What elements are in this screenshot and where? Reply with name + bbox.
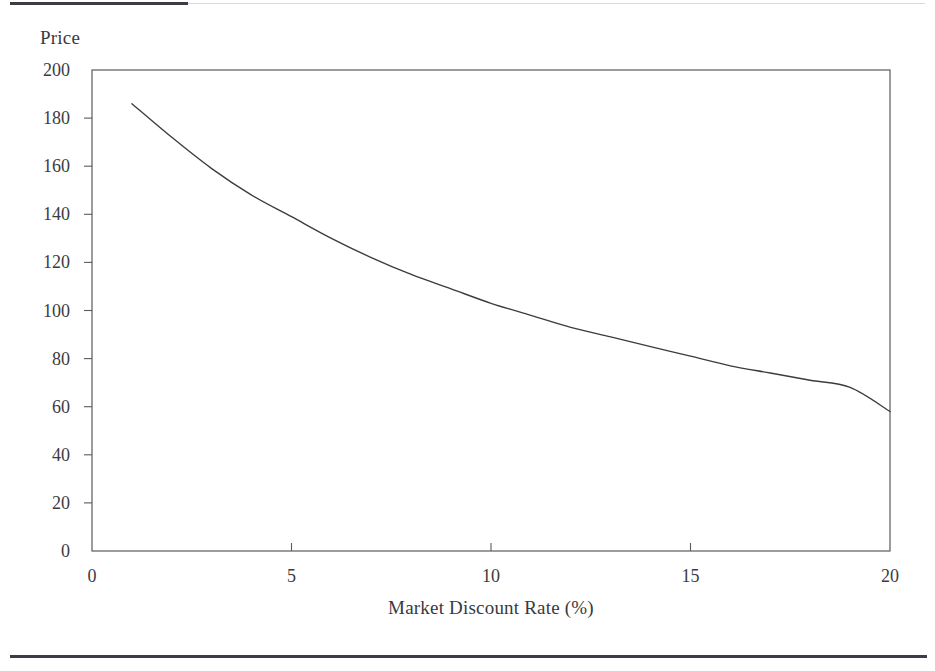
y-tick-label: 0 (8, 542, 70, 560)
y-tick-label: 180 (8, 109, 70, 127)
x-tick-label: 20 (860, 567, 920, 585)
price-curve (132, 104, 890, 412)
y-axis-ticks (84, 118, 92, 503)
plot-area-border (92, 70, 890, 551)
x-tick-label: 5 (262, 567, 322, 585)
plot-frame (92, 70, 890, 551)
x-axis-ticks (292, 543, 691, 551)
x-tick-label: 10 (461, 567, 521, 585)
y-tick-label: 100 (8, 302, 70, 320)
x-tick-label: 0 (62, 567, 122, 585)
y-tick-label: 60 (8, 398, 70, 416)
y-tick-label: 160 (8, 157, 70, 175)
y-tick-label: 20 (8, 494, 70, 512)
y-tick-label: 140 (8, 205, 70, 223)
y-axis-title: Price (40, 27, 80, 49)
y-tick-label: 200 (8, 61, 70, 79)
x-axis-title: Market Discount Rate (%) (92, 597, 890, 619)
y-tick-label: 80 (8, 350, 70, 368)
price-vs-discount-rate-figure: Price Market Discount Rate (%) 020406080… (0, 0, 935, 671)
y-tick-label: 40 (8, 446, 70, 464)
x-tick-label: 15 (661, 567, 721, 585)
y-tick-label: 120 (8, 253, 70, 271)
